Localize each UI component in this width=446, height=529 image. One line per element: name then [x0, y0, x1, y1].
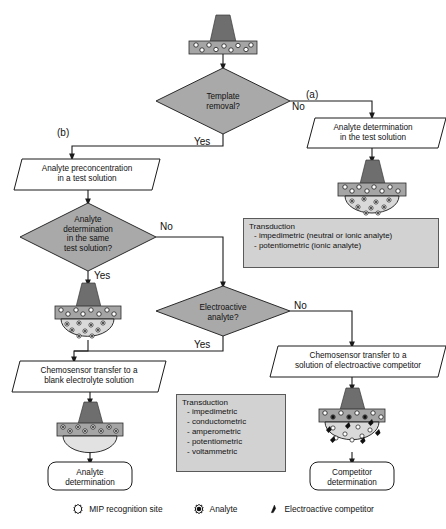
- decision-template-removal-no-label: No: [292, 101, 305, 112]
- transduction-box-top-list: - impedimetric (neutral or ionic analyte…: [244, 231, 438, 251]
- branch-label-a: (a): [306, 89, 318, 100]
- electroactive-competitor-icon: [267, 503, 279, 515]
- decision-same-test-solution-yes-label: Yes: [94, 270, 110, 281]
- process-transfer-blank-electrolyte: [12, 361, 166, 392]
- transduction-top-item-1: - potentiometric (ionic analyte): [254, 241, 438, 251]
- analyte-icon: [193, 503, 205, 515]
- terminator-analyte-determination: [48, 462, 132, 490]
- transduction-top-item-0: - impedimetric (neutral or ionic analyte…: [254, 231, 438, 241]
- decision-same-test-solution: [20, 203, 156, 271]
- decision-template-removal: [156, 68, 290, 134]
- chemosensor-glyph-right-top: [338, 160, 406, 215]
- branch-label-b: (b): [57, 127, 69, 138]
- transduction-box-top: Transduction - impedimetric (neutral or …: [243, 218, 439, 268]
- transduction-box-bottom-title: Transduction: [177, 395, 285, 407]
- transduction-box-bottom-list: - impedimetric - conductometric - ampero…: [177, 407, 285, 457]
- process-transfer-competitor-solution: [270, 346, 446, 377]
- decision-same-test-solution-no-label: No: [160, 221, 173, 232]
- process-analyte-determination-test-solution: [307, 118, 446, 148]
- chemosensor-glyph-right-bottom: [319, 388, 385, 444]
- process-analyte-preconcentration: [14, 159, 160, 190]
- legend-item-electroactive-competitor: Electroactive competitor: [267, 503, 373, 515]
- decision-electroactive-analyte-no-label: No: [294, 300, 307, 311]
- chemosensor-glyph-left-bottom: [57, 402, 123, 453]
- transduction-bottom-item-3: - potentiometric: [187, 437, 285, 447]
- transduction-bottom-item-1: - conductometric: [187, 417, 285, 427]
- legend-item-mip-recognition-site: MIP recognition site: [72, 503, 162, 515]
- transduction-box-bottom: Transduction - impedimetric - conductome…: [176, 394, 286, 472]
- legend-item-analyte: Analyte: [193, 503, 238, 515]
- transduction-bottom-item-0: - impedimetric: [187, 407, 285, 417]
- legend-label-analyte: Analyte: [210, 504, 238, 514]
- legend-label-electroactive-competitor: Electroactive competitor: [284, 504, 373, 514]
- transduction-bottom-item-2: - amperometric: [187, 427, 285, 437]
- chemosensor-glyph-left-mid: [55, 283, 121, 338]
- terminator-competitor-determination: [310, 462, 394, 490]
- transduction-bottom-item-4: - voltammetric: [187, 447, 285, 457]
- transduction-box-top-title: Transduction: [244, 219, 438, 231]
- mip-recognition-site-icon: [72, 503, 84, 515]
- decision-electroactive-analyte: [156, 286, 290, 336]
- legend: MIP recognition site Analyte Electroacti…: [0, 494, 446, 524]
- decision-template-removal-yes-label: Yes: [194, 136, 210, 147]
- flowchart-canvas: Template removal? (a) No (b) Yes Analyte…: [0, 0, 446, 529]
- chemosensor-glyph-top: [189, 15, 257, 54]
- legend-label-mip-recognition-site: MIP recognition site: [89, 504, 162, 514]
- decision-electroactive-analyte-yes-label: Yes: [194, 339, 210, 350]
